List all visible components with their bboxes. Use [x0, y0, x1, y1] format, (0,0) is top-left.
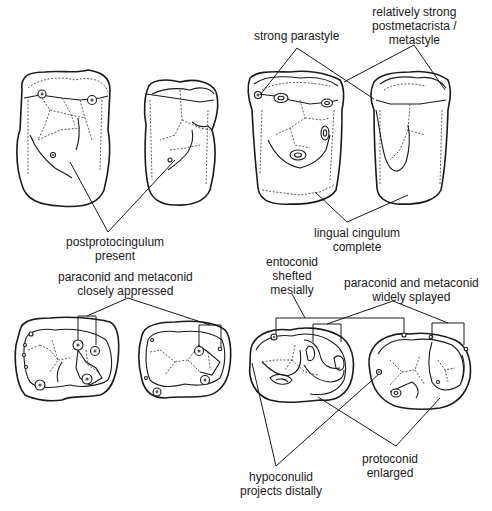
upper-left-tooth-1	[17, 70, 110, 207]
label-postprotocingulum: postprotocingulum present	[66, 235, 164, 263]
label-widely-splayed: paraconid and metaconid widely splayed	[344, 276, 479, 304]
upper-right-tooth-2	[371, 71, 450, 204]
leader-entoconid	[292, 294, 305, 318]
label-closely-appressed: paraconid and metaconid closely appresse…	[58, 270, 193, 298]
leader-postmetacrista	[344, 45, 445, 90]
label-lingual-cingulum: lingual cingulum complete	[314, 226, 400, 254]
lower-right-tooth-1	[250, 328, 354, 402]
label-entoconid: entoconid shefted mesially	[266, 255, 318, 297]
lower-right-tooth-2	[369, 333, 471, 409]
label-postmetacrista: relatively strong postmetacrista / metas…	[372, 5, 457, 47]
lower-left-tooth-1	[15, 317, 118, 401]
lower-left-tooth-2	[139, 321, 231, 398]
upper-left-tooth-2	[145, 80, 218, 205]
leader-widely-splayed	[327, 301, 448, 324]
leader-strong-parastyle	[260, 48, 374, 99]
bracket-closely-appressed-2	[199, 325, 221, 347]
label-hypoconulid: hypoconulid projects distally	[240, 470, 322, 498]
label-protoconid: protoconid enlarged	[362, 452, 418, 480]
leader-protoconid	[318, 397, 440, 446]
leader-postprotocingulum	[70, 160, 175, 232]
bracket-entoconid	[276, 318, 404, 334]
label-strong-parastyle: strong parastyle	[254, 29, 339, 43]
